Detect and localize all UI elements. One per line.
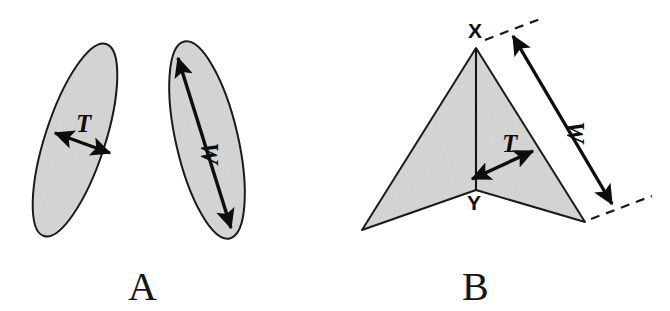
panel-b-letter: B [462, 264, 489, 309]
vertex-label-x: X [468, 19, 482, 42]
figure-canvas: T W A W T X Y B [0, 0, 670, 311]
panel-b: W T X Y B [362, 19, 652, 309]
panel-b-width-label: W [562, 121, 589, 145]
lower-dashed-guide [591, 196, 652, 219]
panel-a-width-label: W [196, 142, 223, 166]
panel-a-thickness-label: T [76, 110, 93, 137]
figure-container: T W A W T X Y B [0, 0, 670, 311]
vertex-label-y: Y [467, 191, 481, 214]
panel-a-letter: A [128, 264, 157, 309]
panel-b-thickness-label: T [502, 130, 519, 157]
panel-a: T W A [15, 35, 260, 309]
right-ellipse [154, 35, 260, 246]
